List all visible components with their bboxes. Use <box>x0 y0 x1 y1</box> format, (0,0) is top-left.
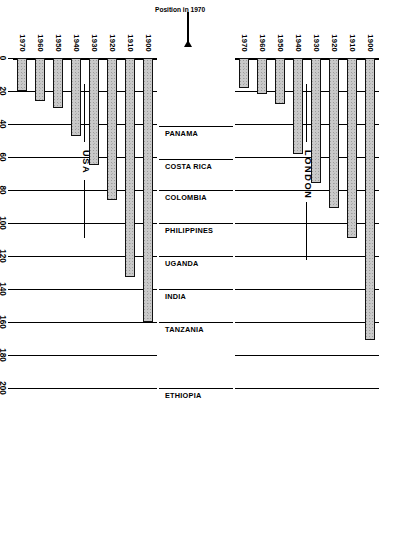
gridline-80 <box>13 190 157 191</box>
figure-1-7: 1900191019201930194019501960197019001910… <box>0 0 393 549</box>
bar-usa-1950 <box>53 58 63 108</box>
axis-tick-200: 200 <box>0 372 7 404</box>
position-in-1970-label: Position in 1970 <box>155 6 205 13</box>
gridline-180 <box>13 355 157 356</box>
panel-name-usa: USA <box>81 150 91 174</box>
country-label-ethiopia: ETHIOPIA <box>165 391 201 400</box>
gridline-100 <box>13 223 157 224</box>
gridline-100 <box>235 223 379 224</box>
gridline-120 <box>235 256 379 257</box>
country-gridline-tanzania <box>159 322 233 323</box>
gridline-120 <box>13 256 157 257</box>
ytick-label-usa-1920: 1920 <box>108 0 117 52</box>
ytick-label-london-1950: 1950 <box>276 0 285 52</box>
panel-rule-right-usa <box>84 180 85 238</box>
panel-rule-right-london <box>306 202 307 260</box>
axis-tickmark-20 <box>8 91 13 92</box>
axis-tickmark-120 <box>8 256 13 257</box>
panel-name-london: LONDON <box>303 150 313 199</box>
axis-tick-160: 160 <box>0 306 7 338</box>
country-gridline-philippines <box>159 223 233 224</box>
axis-tickmark-140 <box>8 289 13 290</box>
country-label-tanzania: TANZANIA <box>165 325 204 334</box>
gridline-140 <box>235 289 379 290</box>
country-gridline-india <box>159 289 233 290</box>
bar-london-1900 <box>365 58 375 340</box>
ytick-label-london-1960: 1960 <box>258 0 267 52</box>
country-label-philippines: PHILIPPINES <box>165 226 213 235</box>
gridline-180 <box>235 355 379 356</box>
rotated-page: 1900191019201930194019501960197019001910… <box>0 0 393 549</box>
gridline-200 <box>13 388 157 389</box>
bar-london-1920 <box>329 58 339 208</box>
bar-london-1960 <box>257 58 267 94</box>
country-gridline-ethiopia <box>159 388 233 389</box>
axis-tickmark-40 <box>8 124 13 125</box>
axis-tickmark-0 <box>8 58 13 59</box>
country-gridline-colombia <box>159 190 233 191</box>
axis-tick-60: 60 <box>0 141 7 173</box>
panel-rule-left-london <box>306 84 307 142</box>
bar-usa-1920 <box>107 58 117 200</box>
bar-usa-1940 <box>71 58 81 136</box>
gridline-40 <box>13 124 157 125</box>
axis-tickmark-60 <box>8 157 13 158</box>
position-arrow-line <box>187 12 189 42</box>
bar-usa-1970 <box>17 58 27 91</box>
axis-tick-0: 0 <box>0 42 7 74</box>
ytick-label-london-1920: 1920 <box>330 0 339 52</box>
axis-tickmark-80 <box>8 190 13 191</box>
gridline-160 <box>235 322 379 323</box>
ytick-label-usa-1900: 1900 <box>144 0 153 52</box>
country-label-uganda: UGANDA <box>165 259 199 268</box>
country-gridline-panama <box>159 126 233 127</box>
axis-tickmark-200 <box>8 388 13 389</box>
ytick-label-usa-1940: 1940 <box>72 0 81 52</box>
ytick-label-london-1900: 1900 <box>366 0 375 52</box>
axis-tick-100: 100 <box>0 207 7 239</box>
axis-tick-20: 20 <box>0 75 7 107</box>
country-label-colombia: COLOMBIA <box>165 193 207 202</box>
ytick-label-london-1940: 1940 <box>294 0 303 52</box>
bar-usa-1900 <box>143 58 153 322</box>
ytick-label-usa-1910: 1910 <box>126 0 135 52</box>
ytick-label-london-1910: 1910 <box>348 0 357 52</box>
axis-tick-140: 140 <box>0 273 7 305</box>
ytick-label-london-1930: 1930 <box>312 0 321 52</box>
axis-tickmark-160 <box>8 322 13 323</box>
country-gridline-uganda <box>159 256 233 257</box>
ytick-label-usa-1960: 1960 <box>36 0 45 52</box>
ytick-label-usa-1970: 1970 <box>18 0 27 52</box>
axis-tickmark-180 <box>8 355 13 356</box>
country-label-panama: PANAMA <box>165 129 198 138</box>
position-arrow-head <box>184 40 192 47</box>
bar-london-1910 <box>347 58 357 238</box>
axis-tickmark-100 <box>8 223 13 224</box>
bar-usa-1910 <box>125 58 135 277</box>
figure-frame: 1900191019201930194019501960197019001910… <box>0 0 393 549</box>
gridline-200 <box>235 388 379 389</box>
gridline-160 <box>13 322 157 323</box>
bar-london-1940 <box>293 58 303 154</box>
gridline-40 <box>235 124 379 125</box>
country-gridline-costa-rica <box>159 159 233 160</box>
axis-tick-80: 80 <box>0 174 7 206</box>
country-label-costa-rica: COSTA RICA <box>165 162 212 171</box>
bar-london-1970 <box>239 58 249 88</box>
panel-rule-left-usa <box>84 84 85 142</box>
bar-usa-1960 <box>35 58 45 101</box>
ytick-label-london-1970: 1970 <box>240 0 249 52</box>
ytick-label-usa-1930: 1930 <box>90 0 99 52</box>
gridline-140 <box>13 289 157 290</box>
axis-tick-40: 40 <box>0 108 7 140</box>
country-label-india: INDIA <box>165 292 186 301</box>
ytick-label-usa-1950: 1950 <box>54 0 63 52</box>
axis-tick-120: 120 <box>0 240 7 272</box>
axis-tick-180: 180 <box>0 339 7 371</box>
bar-london-1950 <box>275 58 285 104</box>
